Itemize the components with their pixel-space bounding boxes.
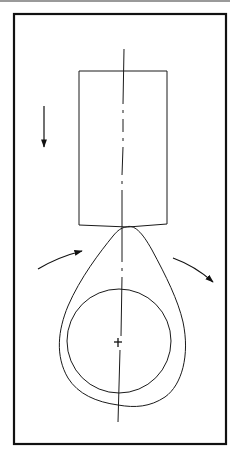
incoming-rotation-arrow <box>38 251 82 269</box>
mechanism-diagram <box>0 0 230 452</box>
vertical-centerline <box>118 49 124 422</box>
outgoing-rotation-arrow <box>173 258 213 282</box>
center-cross <box>114 338 122 347</box>
